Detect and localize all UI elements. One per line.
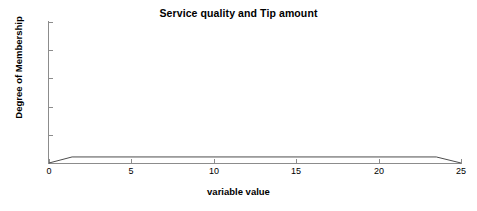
plot-area: [49, 22, 461, 163]
y-axis-label: Degree of Membership: [13, 0, 24, 148]
x-axis-label: variable value: [0, 186, 477, 197]
membership-line-series: [49, 22, 461, 163]
x-tick-label: 25: [441, 167, 477, 176]
x-tick-label: 10: [194, 167, 234, 176]
chart-figure: Service quality and Tip amount 0.00.20.4…: [0, 0, 477, 211]
chart-title: Service quality and Tip amount: [0, 7, 477, 19]
x-tick-label: 0: [29, 167, 69, 176]
x-tick-label: 5: [111, 167, 151, 176]
series-polyline: [49, 157, 461, 163]
x-axis-spine: [48, 163, 462, 164]
x-tick-label: 15: [276, 167, 316, 176]
x-tick-label: 20: [359, 167, 399, 176]
x-tick-mark: [461, 159, 462, 163]
